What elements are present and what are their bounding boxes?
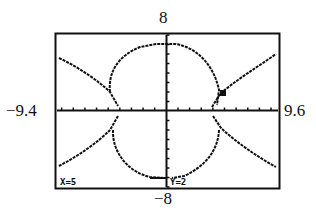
calculator-graph-screen: X=5 Y=2 bbox=[0, 0, 316, 210]
trace-cursor[interactable] bbox=[220, 90, 226, 96]
x-readout: X=5 bbox=[60, 177, 76, 187]
y-readout: Y=2 bbox=[170, 177, 186, 187]
